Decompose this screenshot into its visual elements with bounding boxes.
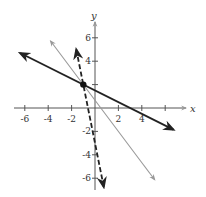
line-gray-solid (51, 41, 155, 180)
x-tick-label: -6 (20, 114, 29, 124)
x-axis-label: x (190, 103, 196, 114)
x-tick-label: 2 (116, 114, 122, 124)
y-tick-label: -6 (82, 173, 91, 183)
y-axis-label: y (90, 10, 97, 21)
x-tick-label: -4 (44, 114, 53, 124)
x-tick-label: -2 (67, 114, 76, 124)
y-tick-label: 4 (85, 56, 91, 66)
coordinate-plane: -6-4-22464-2-4-6 x y (0, 0, 206, 197)
intersection-point (80, 81, 86, 87)
line-black-dashed (76, 50, 103, 187)
y-tick-label: -2 (82, 126, 91, 136)
y-tick-label: 6 (85, 33, 91, 43)
y-tick-label: -4 (82, 150, 91, 160)
